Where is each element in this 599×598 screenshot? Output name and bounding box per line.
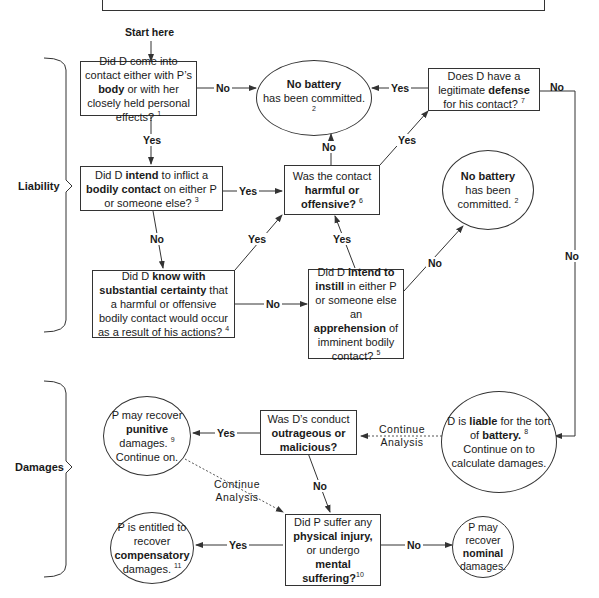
text: or undergo — [306, 544, 359, 556]
node-intend-contact-question[interactable]: Did D intend to inflict a bodily contact… — [80, 166, 223, 211]
node-apprehension-question[interactable]: Did D intend to instill in either P or s… — [308, 269, 404, 359]
text-bold: battery. — [482, 429, 521, 441]
text: Did P suffer any — [294, 516, 372, 528]
node-no-battery-2[interactable]: No battery has been committed. 2 — [442, 150, 534, 230]
edge-label-apprehension-no: No — [426, 257, 444, 269]
node-liable-battery[interactable]: D is liable for the tort of battery. 8Co… — [441, 391, 557, 493]
footnote-marker: 6 — [359, 197, 363, 204]
edge-label-intend-no: No — [148, 233, 166, 245]
text: Continue on. — [116, 451, 178, 463]
text: P may recover — [465, 521, 500, 546]
footnote-marker: 5 — [376, 349, 380, 356]
footnote-marker: 2 — [312, 105, 316, 112]
footnote-marker: 8 — [524, 428, 528, 435]
text-bold: compensatory — [114, 549, 189, 561]
node-injury-question[interactable]: Did P suffer any physical injury, or und… — [285, 514, 381, 586]
text-bold: bodily contact — [86, 183, 161, 195]
footnote-marker: 7 — [521, 97, 525, 104]
edge-label-intend-yes: Yes — [237, 185, 259, 197]
footnote-marker: 4 — [225, 325, 229, 332]
footnote-marker: 3 — [195, 196, 199, 203]
edge-label-defense-no-vertical: No — [563, 250, 581, 262]
start-label: Start here — [123, 26, 176, 38]
text-bold: intend — [126, 169, 159, 181]
text: Did D — [122, 270, 153, 282]
text: Did D — [95, 169, 126, 181]
text: Did D come into contact either with P’s — [85, 55, 192, 81]
node-contact-question[interactable]: Did D come into contact either with P’s … — [80, 61, 197, 116]
edge-label-knowledge-yes: Yes — [246, 233, 268, 245]
text: to inflict a — [159, 169, 209, 181]
edge-label-defense-no: No — [548, 81, 566, 93]
text: Did D — [318, 266, 349, 278]
section-damages: Damages — [15, 461, 64, 473]
text: has been committed. — [263, 92, 365, 104]
text: P may recover — [112, 409, 183, 421]
node-punitive-damages[interactable]: P may recover punitive damages. 9Continu… — [103, 396, 191, 476]
edge-label-outrageous-no: No — [311, 480, 329, 492]
text-bold: harmful or offensive? — [301, 184, 359, 210]
text-bold: body — [98, 83, 124, 95]
text-bold: apprehension — [314, 322, 386, 334]
footnote-marker: 2 — [514, 197, 518, 204]
node-nominal-damages[interactable]: P may recover nominal damages. — [452, 516, 514, 578]
text-bold: outrageous or malicious? — [272, 427, 346, 453]
edge-label-contact-no: No — [214, 82, 232, 94]
node-compensatory-damages[interactable]: P is entitled to recover compensatory da… — [110, 512, 194, 584]
node-outrageous-question[interactable]: Was D’s conduct outrageous or malicious? — [260, 410, 357, 455]
edge-label-harmful-no: No — [320, 141, 338, 153]
text: Was the contact — [293, 170, 371, 182]
edge-label-continue-analysis-2: Continue Analysis — [207, 478, 267, 504]
text-bold: No battery — [287, 78, 341, 90]
edge-label-knowledge-no: No — [264, 298, 282, 310]
node-no-battery-1[interactable]: No battery has been committed. 2 — [256, 60, 372, 136]
node-harmful-question[interactable]: Was the contact harmful or offensive? 6 — [284, 165, 380, 215]
footnote-marker: 9 — [171, 436, 175, 443]
text: has been committed. — [458, 184, 512, 210]
footnote-marker: 1 — [157, 110, 161, 117]
text-bold: No battery — [461, 170, 515, 182]
text-bold: know with substantial certainty — [99, 270, 206, 296]
edge-label-injury-no: No — [405, 539, 423, 551]
section-liability: Liability — [18, 180, 60, 192]
edge-label-contact-yes: Yes — [141, 134, 163, 146]
text-bold: nominal — [463, 547, 503, 559]
edge-label-harmful-yes: Yes — [396, 134, 418, 146]
edge-label-outrageous-yes: Yes — [215, 427, 237, 439]
text-bold: punitive — [126, 423, 168, 435]
text: Was D’s conduct — [268, 413, 350, 425]
node-defense-question[interactable]: Does D have a legitimate defense for his… — [428, 68, 540, 111]
text: damages. — [460, 560, 506, 572]
edge-label-injury-yes: Yes — [227, 539, 249, 551]
text: damages. — [123, 563, 171, 575]
edge-label-continue-analysis-1: Continue Analysis — [372, 423, 432, 449]
text-bold: liable — [469, 415, 497, 427]
text: for his contact? — [443, 98, 518, 110]
footnote-marker: 11 — [174, 562, 181, 569]
text-bold: mental suffering? — [302, 558, 356, 584]
edge-label-apprehension-yes: Yes — [331, 233, 353, 245]
node-knowledge-question[interactable]: Did D know with substantial certainty th… — [92, 270, 235, 338]
text: P is entitled to recover — [118, 521, 187, 547]
footnote-marker: 10 — [356, 571, 364, 578]
text: D is — [447, 415, 469, 427]
text: damages. — [119, 437, 167, 449]
text-bold: defense — [488, 84, 530, 96]
edge-label-defense-yes: Yes — [389, 82, 411, 94]
text-bold: physical injury, — [293, 530, 372, 542]
text: Continue on to calculate damages. — [452, 443, 547, 469]
